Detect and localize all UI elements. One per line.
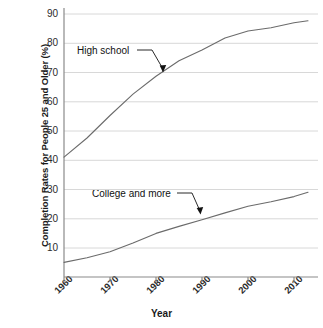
axis-lines: [64, 8, 318, 277]
gridlines: [64, 14, 318, 248]
chart-container: Completion Rates for People 25 and Older…: [0, 0, 323, 328]
plot-area: [0, 0, 323, 328]
leader-line-high-school: [137, 50, 166, 73]
x-axis-ticks: [64, 277, 294, 282]
leader-line-college-and-more: [177, 193, 203, 215]
series-line-college-and-more: [64, 192, 308, 262]
series-line-high-school: [64, 21, 308, 157]
